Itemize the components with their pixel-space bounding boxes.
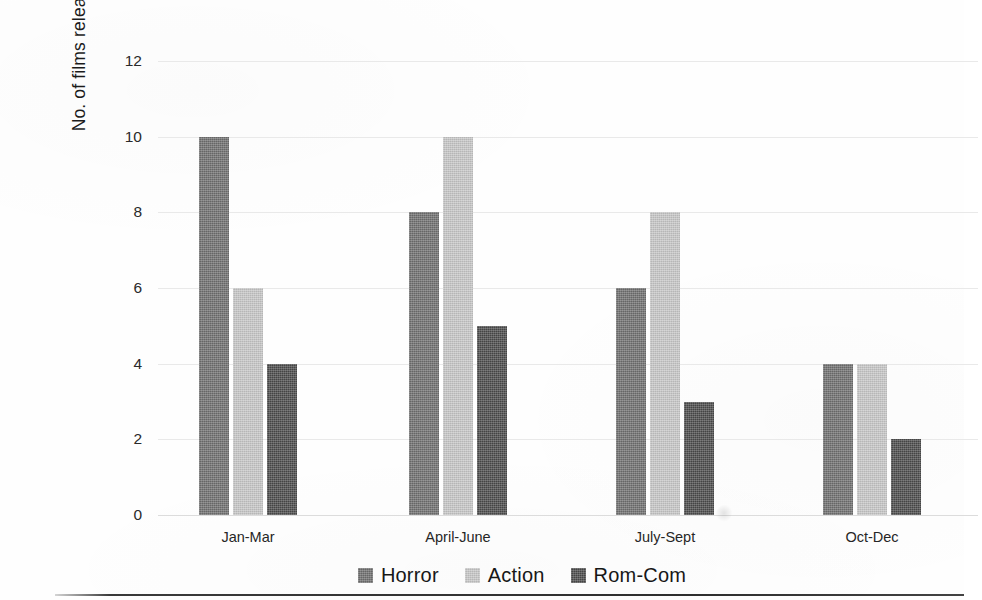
bar-group xyxy=(616,61,714,515)
y-axis-tick-label: 2 xyxy=(133,430,142,448)
legend-item-action[interactable]: Action xyxy=(465,564,545,587)
legend-swatch-icon xyxy=(465,568,480,583)
legend-swatch-icon xyxy=(358,568,373,583)
y-axis-tick-label: 4 xyxy=(133,355,142,373)
y-axis-tick-label: 10 xyxy=(125,128,142,146)
y-axis-title: No. of films released xyxy=(62,0,96,200)
legend-item-rom-com[interactable]: Rom-Com xyxy=(571,564,687,587)
bar-action-oct-dec[interactable] xyxy=(857,364,887,515)
bar-group xyxy=(409,61,507,515)
x-axis-tick-label: July-Sept xyxy=(585,529,745,545)
gridline xyxy=(158,515,978,516)
legend-item-horror[interactable]: Horror xyxy=(358,564,439,587)
bars-layer xyxy=(158,61,978,515)
plot-area: 024681012 Jan-MarApril-JuneJuly-SeptOct-… xyxy=(158,61,978,515)
legend-swatch-icon xyxy=(571,568,586,583)
scan-page-edge-line xyxy=(55,594,964,596)
legend-label: Action xyxy=(488,564,545,587)
bar-horror-july-sept[interactable] xyxy=(616,288,646,515)
bar-rom-com-july-sept[interactable] xyxy=(684,402,714,516)
bar-group xyxy=(199,61,297,515)
bar-horror-april-june[interactable] xyxy=(409,212,439,515)
grouped-bar-chart: No. of films released 024681012 Jan-MarA… xyxy=(40,16,982,600)
x-axis-tick-label: Jan-Mar xyxy=(168,529,328,545)
legend-label: Rom-Com xyxy=(594,564,687,587)
bar-action-april-june[interactable] xyxy=(443,137,473,515)
y-axis-tick-label: 8 xyxy=(133,203,142,221)
bar-rom-com-april-june[interactable] xyxy=(477,326,507,515)
y-axis-title-container: No. of films released xyxy=(54,16,94,536)
bar-action-jan-mar[interactable] xyxy=(233,288,263,515)
y-axis-tick-label: 0 xyxy=(133,506,142,524)
bar-horror-oct-dec[interactable] xyxy=(823,364,853,515)
bar-rom-com-jan-mar[interactable] xyxy=(267,364,297,515)
y-axis-tick-label: 6 xyxy=(133,279,142,297)
y-axis-tick-label: 12 xyxy=(125,52,142,70)
bar-horror-jan-mar[interactable] xyxy=(199,137,229,515)
bar-action-july-sept[interactable] xyxy=(650,212,680,515)
x-axis-tick-label: April-June xyxy=(378,529,538,545)
x-axis-tick-label: Oct-Dec xyxy=(792,529,952,545)
bar-group xyxy=(823,61,921,515)
chart-legend: HorrorActionRom-Com xyxy=(40,564,982,587)
legend-label: Horror xyxy=(381,564,439,587)
bar-rom-com-oct-dec[interactable] xyxy=(891,439,921,515)
